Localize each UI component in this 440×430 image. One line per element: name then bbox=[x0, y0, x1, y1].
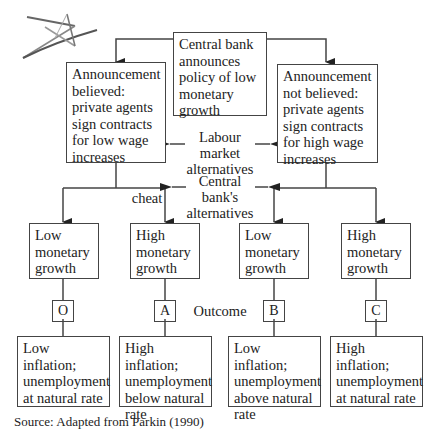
outcome-b-description: Low inflation; unemployment above natura… bbox=[228, 336, 321, 407]
outcome-code-b: B bbox=[263, 300, 285, 322]
outcome-label: Outcome bbox=[190, 303, 250, 319]
outcome-c-description: High inflation; unemployment at natural … bbox=[330, 336, 423, 407]
option-high-growth-believed: High monetary growth bbox=[130, 223, 200, 279]
outcome-code-c: C bbox=[365, 300, 387, 322]
labour-market-label: Labour market alternatives bbox=[186, 129, 254, 177]
root-node-text: Central bank announces policy of low mon… bbox=[179, 36, 256, 118]
announcement-not-believed-text: Announcement not believed: private agent… bbox=[283, 68, 372, 167]
announcement-believed-text: Announcement believed: private agents si… bbox=[72, 66, 161, 165]
option-low-growth-not-believed: Low monetary growth bbox=[239, 223, 309, 279]
announcement-not-believed-node: Announcement not believed: private agent… bbox=[277, 64, 378, 163]
outcome-a-description: High inflation; unemployment below natur… bbox=[119, 336, 212, 407]
outcome-code-a: A bbox=[154, 300, 176, 322]
option-high-growth-not-believed: High monetary growth bbox=[341, 223, 411, 279]
source-caption: Source: Adapted from Parkin (1990) bbox=[14, 414, 204, 430]
outcome-code-o: O bbox=[52, 300, 74, 322]
option-low-growth-believed: Low monetary growth bbox=[29, 223, 99, 279]
outcome-o-description: Low inflation; unemployment at natural r… bbox=[17, 336, 110, 407]
cheat-label: cheat bbox=[130, 190, 164, 206]
central-bank-alternatives-label: Central bank's alternatives bbox=[186, 173, 254, 221]
root-node: Central bank announces policy of low mon… bbox=[173, 32, 267, 116]
announcement-believed-node: Announcement believed: private agents si… bbox=[66, 62, 166, 163]
